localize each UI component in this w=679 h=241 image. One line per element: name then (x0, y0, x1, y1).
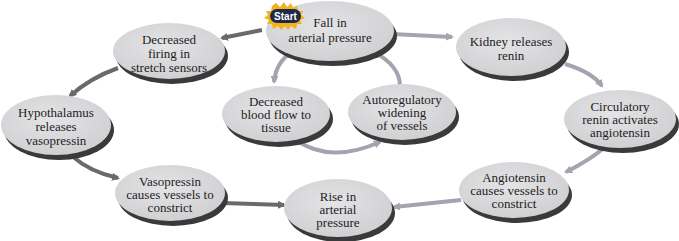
svg-text:pressure: pressure (316, 215, 360, 230)
node-text-line: constrict (492, 196, 537, 211)
svg-text:arterial pressure: arterial pressure (288, 30, 372, 45)
node-angiotensin-constrict: Angiotensin causes vessels to constrict (459, 162, 572, 223)
node-text-line: Fall in (313, 15, 347, 30)
svg-text:Fall in: Fall in (313, 15, 347, 30)
svg-text:vasopressin: vasopressin (26, 133, 87, 148)
svg-text:of vessels: of vessels (377, 118, 428, 133)
node-circulatory-renin: Circulatory renin activates angiotensin (564, 90, 679, 153)
node-text-line: of vessels (377, 118, 428, 133)
node-autoregulatory-widening: Autoregulatory widening of vessels (348, 84, 459, 145)
svg-text:Start: Start (274, 11, 297, 22)
node-text-line: Hypothalamus (18, 105, 94, 120)
node-text-line: arterial pressure (288, 30, 372, 45)
svg-text:stretch sensors: stretch sensors (131, 60, 207, 75)
arrow-firing-to-hypothalamus (70, 68, 118, 96)
node-text-line: releases (35, 119, 76, 134)
node-text-line: pressure (316, 215, 360, 230)
start-label: Start (274, 11, 297, 22)
svg-text:tissue: tissue (261, 120, 291, 135)
node-text-line: renin (498, 48, 525, 63)
svg-text:constrict: constrict (148, 200, 193, 215)
svg-text:Kidney releases: Kidney releases (470, 34, 553, 49)
arrow-vasopressin-to-rise (223, 203, 284, 205)
node-text-line: vasopressin (26, 133, 87, 148)
arrow-hypothalamus-to-vasopressin (72, 156, 118, 178)
arrow-angiotensin-to-rise (394, 200, 461, 207)
arrow-fall-to-decreased-firing (222, 30, 262, 38)
node-vasopressin-constrict: Vasopressin causes vessels to constrict (115, 165, 228, 226)
arrow-fall-to-kidney (392, 34, 452, 37)
svg-text:releases: releases (35, 119, 76, 134)
node-text-line: Decreased (142, 32, 197, 47)
svg-text:firing in: firing in (148, 46, 191, 61)
svg-text:Hypothalamus: Hypothalamus (18, 105, 94, 120)
node-kidney-releases-renin: Kidney releases renin (456, 18, 569, 81)
node-text-line: angiotensin (590, 125, 650, 140)
node-text-line: tissue (261, 120, 291, 135)
svg-text:angiotensin: angiotensin (590, 125, 650, 140)
arrow-kidney-to-circulatory (565, 64, 602, 86)
svg-text:renin: renin (498, 48, 525, 63)
node-rise-in-arterial-pressure: Rise in arterial pressure (284, 179, 395, 241)
node-text-line: Kidney releases (470, 34, 553, 49)
diagram-canvas: Fall in arterial pressure Start Decrease… (0, 0, 679, 241)
node-text-line: stretch sensors (131, 60, 207, 75)
node-decreased-blood-flow: Decreased blood flow to tissue (222, 86, 333, 147)
node-text-line: firing in (148, 46, 191, 61)
node-hypothalamus: Hypothalamus releases vasopressin (1, 95, 114, 160)
node-text-line: constrict (148, 200, 193, 215)
arrow-circulatory-to-angiotensin (566, 147, 605, 172)
svg-text:constrict: constrict (492, 196, 537, 211)
node-decreased-firing: Decreased firing in stretch sensors (113, 23, 228, 84)
svg-text:Decreased: Decreased (142, 32, 197, 47)
